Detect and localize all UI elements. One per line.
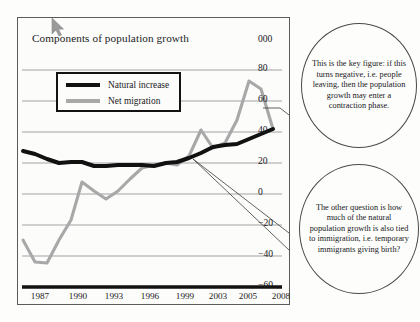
y-axis-unit-label: 000 — [258, 33, 272, 44]
y-tick-60: 60 — [258, 93, 268, 104]
legend-label-natural-increase: Natural increase — [108, 80, 169, 90]
x-tick-1999: 1999 — [176, 291, 194, 301]
chart-panel: Components of population growth Natural … — [17, 17, 290, 305]
x-tick-2005: 2005 — [239, 291, 257, 301]
screenshot-canvas: Components of population growth Natural … — [0, 0, 420, 322]
y-tick-80: 80 — [258, 62, 268, 73]
legend-item-net-migration: Net migration — [66, 94, 160, 108]
chart-plot-area — [18, 18, 289, 304]
legend-swatch-gray — [66, 99, 100, 102]
y-tick-neg40: −40 — [258, 248, 273, 259]
immigration-question-callout-text: The other question is how much of the na… — [300, 203, 418, 256]
key-figure-callout: This is the key figure: if this turns ne… — [301, 23, 417, 148]
legend-swatch-black — [66, 83, 100, 87]
legend-label-net-migration: Net migration — [108, 96, 160, 106]
x-axis-tick-labels: 1987 1990 1993 1996 1999 2003 2005 2008 — [17, 291, 290, 311]
x-tick-1990: 1990 — [69, 291, 87, 301]
y-tick-0: 0 — [258, 186, 263, 197]
y-tick-neg60: −60 — [258, 279, 273, 290]
chart-legend: Natural increase Net migration — [56, 72, 181, 112]
immigration-question-callout: The other question is how much of the na… — [299, 164, 419, 294]
mouse-pointer-icon — [51, 17, 65, 37]
x-tick-1993: 1993 — [105, 291, 123, 301]
series-natural-increase — [23, 129, 273, 166]
y-tick-neg20: −20 — [258, 217, 273, 228]
key-figure-callout-text: This is the key figure: if this turns ne… — [302, 59, 416, 112]
y-tick-40: 40 — [258, 124, 268, 135]
y-axis-tick-labels: 000 80 60 40 20 0 −20 −40 −60 — [258, 0, 298, 322]
x-tick-2003: 2003 — [209, 291, 227, 301]
x-tick-2008: 2008 — [272, 291, 290, 301]
x-tick-1987: 1987 — [31, 291, 49, 301]
y-tick-20: 20 — [258, 155, 268, 166]
legend-item-natural-increase: Natural increase — [66, 78, 169, 92]
x-tick-1996: 1996 — [141, 291, 159, 301]
